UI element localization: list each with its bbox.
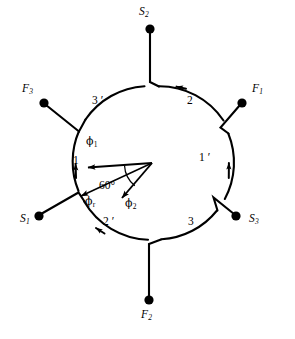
lead-line-F2 bbox=[149, 240, 161, 299]
arc-label-2-prime: 2 ′ bbox=[103, 216, 114, 228]
winding-diagram-svg bbox=[0, 0, 295, 339]
phasor-label-phi2: ϕ2 bbox=[125, 198, 136, 209]
terminal-dot-S2 bbox=[145, 24, 154, 33]
terminal-dot-F3 bbox=[39, 98, 48, 107]
lead-line-S1 bbox=[41, 193, 85, 215]
terminal-label-S2: S2 bbox=[139, 6, 149, 18]
arc-label-2: 2 bbox=[187, 95, 193, 107]
terminal-label-F3: F3 bbox=[22, 83, 33, 95]
terminal-label-F1: F1 bbox=[252, 83, 263, 95]
lead-line-S2 bbox=[150, 31, 159, 87]
figure-root: S2 F1 S3 F2 S1 F3 3 ′ 2 1 ′ 3 2 ′ 1 ϕ1 ϕ… bbox=[0, 0, 295, 339]
phasor-label-phi1: ϕ1 bbox=[86, 136, 97, 147]
arc-label-3: 3 bbox=[188, 216, 194, 228]
arc-label-1-prime: 1 ′ bbox=[199, 152, 210, 164]
lead-line-F3 bbox=[46, 105, 86, 132]
angle-label-60-degrees: 60° bbox=[99, 180, 115, 192]
arc-2-prime-arrowhead bbox=[96, 228, 105, 234]
phasor-vector-phi2 bbox=[122, 163, 152, 198]
terminal-dot-S1 bbox=[34, 211, 43, 220]
terminal-label-S1: S1 bbox=[20, 213, 30, 225]
phasor-label-phir: ϕr bbox=[85, 196, 95, 207]
terminal-dot-F1 bbox=[237, 98, 246, 107]
terminal-dot-S3 bbox=[231, 211, 240, 220]
terminal-dot-F2 bbox=[144, 295, 153, 304]
terminal-label-S3: S3 bbox=[249, 213, 259, 225]
terminal-label-F2: F2 bbox=[141, 309, 152, 321]
arc-label-3-prime: 3 ′ bbox=[92, 95, 103, 107]
arc-label-1: 1 bbox=[73, 155, 79, 167]
